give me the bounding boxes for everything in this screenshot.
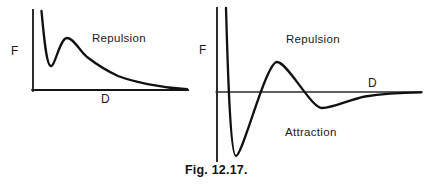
right-attraction-annotation: Attraction <box>285 127 337 139</box>
figure-12-17: F D Repulsion F D Repulsion Attraction F… <box>0 0 440 185</box>
right-y-axis-label: F <box>199 44 206 56</box>
left-y-axis-label: F <box>11 45 18 57</box>
left-repulsion-curve <box>42 11 188 89</box>
left-x-axis-label: D <box>101 93 110 105</box>
right-x-axis-label: D <box>368 77 377 89</box>
figure-caption: Fig. 12.17. <box>185 164 248 177</box>
left-repulsion-annotation: Repulsion <box>92 33 146 45</box>
force-distance-plots <box>0 0 440 185</box>
right-repulsion-annotation: Repulsion <box>286 34 340 46</box>
